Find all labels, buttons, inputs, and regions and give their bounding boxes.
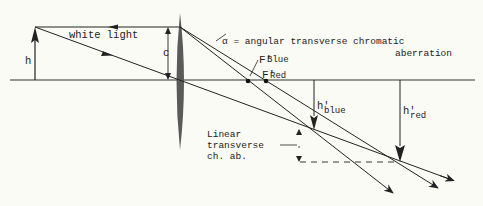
f-red-subscript: Red bbox=[270, 71, 286, 81]
linear-label-line1: Linear bbox=[207, 129, 241, 140]
blue-ray bbox=[180, 27, 393, 193]
linear-ab-arrow-down-icon bbox=[296, 156, 302, 162]
chief-ray-end bbox=[440, 176, 454, 181]
h-red-subscript: red bbox=[410, 111, 426, 121]
linear-ab-arrow-up-icon bbox=[296, 129, 302, 135]
white-light-label: white light bbox=[69, 29, 138, 41]
chromatic-aberration-diagram: white light h c α = angular transverse c… bbox=[0, 0, 483, 206]
h-blue-subscript: blue bbox=[324, 106, 346, 116]
alpha-definition-line2: aberration bbox=[395, 48, 452, 59]
linear-label-line2: transverse bbox=[207, 140, 264, 151]
h-blue-arrow-icon bbox=[310, 115, 318, 130]
alpha-definition-line1: α = angular transverse chromatic bbox=[222, 36, 405, 47]
focal-point-blue bbox=[246, 79, 251, 84]
chief-ray-arrow-icon bbox=[101, 51, 113, 56]
c-arrow-up-icon bbox=[165, 27, 171, 34]
linear-label-line3: ch. ab. bbox=[207, 151, 247, 162]
c-label: c bbox=[163, 47, 169, 59]
h-label: h bbox=[25, 55, 31, 67]
f-blue-subscript: Blue bbox=[267, 55, 289, 65]
